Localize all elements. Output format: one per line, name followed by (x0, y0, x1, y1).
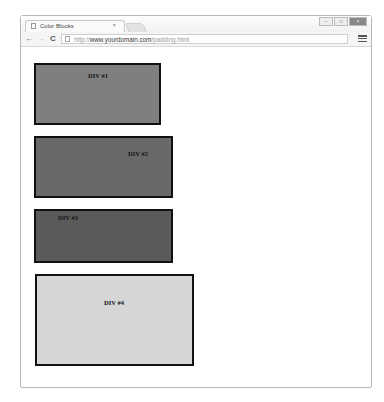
address-bar[interactable]: http://www.yourdomain.com/padding.html (61, 34, 348, 44)
div-block-1: DIV #1 (34, 63, 161, 125)
div-block-label: DIV #3 (58, 214, 78, 221)
title-bar: Color Blocks × – □ × (21, 16, 371, 32)
div-block-2: DIV #2 (34, 136, 173, 198)
page-content: DIV #1 DIV #2 DIV #3 DIV #4 (21, 47, 371, 387)
url-domain: www.yourdomain.com (90, 36, 152, 43)
div-block-3: DIV #3 (34, 209, 173, 263)
div-block-label: DIV #1 (88, 72, 108, 79)
tab-close-button[interactable]: × (112, 22, 116, 28)
toolbar: ← → C http://www.yourdomain.com/padding.… (21, 32, 371, 47)
browser-window: Color Blocks × – □ × ← → C http://www.yo… (20, 15, 372, 388)
window-controls: – □ × (319, 17, 367, 26)
url-text: http://www.yourdomain.com/padding.html (74, 35, 189, 45)
forward-button[interactable]: → (37, 34, 45, 43)
menu-icon[interactable] (358, 34, 367, 43)
close-window-button[interactable]: × (349, 17, 367, 26)
url-path: /padding.html (151, 36, 189, 43)
page-icon (65, 36, 70, 42)
reload-button[interactable]: C (50, 34, 56, 43)
minimize-button[interactable]: – (319, 17, 333, 26)
div-block-label: DIV #2 (128, 150, 148, 157)
url-scheme: http:// (74, 36, 90, 43)
tab-color-blocks[interactable]: Color Blocks × (25, 20, 125, 32)
div-block-4: DIV #4 (35, 274, 194, 366)
back-button[interactable]: ← (25, 34, 33, 43)
div-block-label: DIV #4 (104, 299, 124, 306)
tab-title: Color Blocks (40, 23, 74, 29)
maximize-button[interactable]: □ (334, 17, 348, 26)
page-icon (31, 23, 36, 29)
